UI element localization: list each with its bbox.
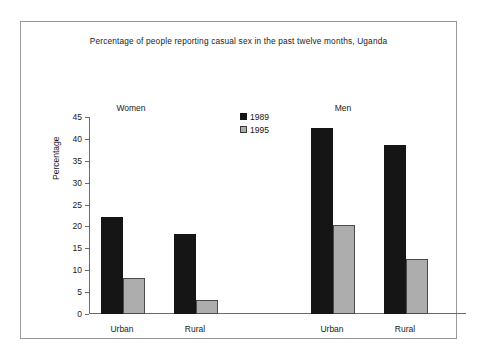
y-tick-label-0: 0 xyxy=(77,309,82,319)
bar-men-urban-1989[interactable] xyxy=(311,128,333,314)
y-tick-20 xyxy=(85,226,89,227)
bar-men-rural-1995[interactable] xyxy=(406,259,428,314)
group-label-women: Women xyxy=(116,103,145,113)
chart-title: Percentage of people reporting casual se… xyxy=(21,36,456,46)
y-tick-15 xyxy=(85,248,89,249)
y-axis-title: Percentage xyxy=(51,137,61,180)
bar-men-rural-1989[interactable] xyxy=(384,145,406,314)
y-tick-40 xyxy=(85,139,89,140)
y-tick-5 xyxy=(85,292,89,293)
bar-women-rural-1995[interactable] xyxy=(196,300,218,314)
y-tick-label-10: 10 xyxy=(73,265,82,275)
y-tick-25 xyxy=(85,205,89,206)
y-tick-label-30: 30 xyxy=(73,178,82,188)
bar-women-rural-1989[interactable] xyxy=(174,234,196,314)
y-tick-45 xyxy=(85,117,89,118)
y-tick-label-45: 45 xyxy=(73,112,82,122)
bar-men-urban-1995[interactable] xyxy=(333,225,355,314)
y-axis-line xyxy=(89,117,90,314)
y-tick-30 xyxy=(85,183,89,184)
y-tick-label-25: 25 xyxy=(73,200,82,210)
y-tick-10 xyxy=(85,270,89,271)
y-tick-label-40: 40 xyxy=(73,134,82,144)
x-tick-label-men-urban: Urban xyxy=(320,324,343,334)
y-tick-label-20: 20 xyxy=(73,221,82,231)
y-tick-label-15: 15 xyxy=(73,243,82,253)
bar-women-urban-1989[interactable] xyxy=(101,217,123,314)
group-label-men: Men xyxy=(335,103,352,113)
y-tick-35 xyxy=(85,161,89,162)
x-tick-label-men-rural: Rural xyxy=(395,324,415,334)
chart-page: Percentage of people reporting casual se… xyxy=(0,0,480,353)
figure-frame: Percentage of people reporting casual se… xyxy=(20,21,457,339)
y-tick-label-5: 5 xyxy=(77,287,82,297)
y-tick-0 xyxy=(85,314,89,315)
x-tick-label-women-rural: Rural xyxy=(185,324,205,334)
y-tick-label-35: 35 xyxy=(73,156,82,166)
bar-women-urban-1995[interactable] xyxy=(123,278,145,314)
x-tick-label-women-urban: Urban xyxy=(110,324,133,334)
plot-area: 45 40 35 30 25 20 15 10 5 0 xyxy=(89,117,466,314)
